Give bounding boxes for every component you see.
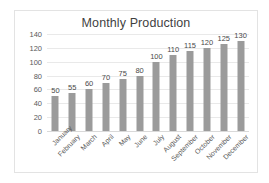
x-axis: JanuaryFebruaryMarchAprilMayJuneJulyAugu… bbox=[47, 131, 249, 176]
y-axis: 020406080100120140 bbox=[15, 34, 45, 131]
bar[interactable] bbox=[237, 41, 244, 131]
bar-slot: 60 bbox=[81, 34, 98, 131]
bar[interactable] bbox=[170, 55, 177, 131]
bar[interactable] bbox=[203, 48, 210, 131]
bar-value-label: 115 bbox=[184, 41, 196, 50]
bar[interactable] bbox=[102, 83, 109, 132]
bar-slot: 55 bbox=[64, 34, 81, 131]
bar-slot: 70 bbox=[98, 34, 115, 131]
y-axis-tick-label: 120 bbox=[29, 43, 42, 52]
bar-slot: 130 bbox=[232, 34, 249, 131]
y-axis-tick-label: 20 bbox=[34, 113, 42, 122]
x-axis-tick-label: January bbox=[51, 133, 65, 147]
bar[interactable] bbox=[153, 62, 160, 131]
bar[interactable] bbox=[220, 44, 227, 131]
bar[interactable] bbox=[86, 89, 93, 131]
bar-slot: 125 bbox=[215, 34, 232, 131]
bar-slot: 80 bbox=[131, 34, 148, 131]
bar-value-label: 80 bbox=[135, 66, 143, 75]
y-axis-tick-label: 100 bbox=[29, 57, 42, 66]
bar-value-label: 55 bbox=[68, 83, 76, 92]
bar-value-label: 110 bbox=[167, 45, 179, 54]
bar[interactable] bbox=[52, 96, 59, 131]
chart-title: Monthly Production bbox=[15, 16, 257, 30]
bar-value-label: 75 bbox=[119, 69, 127, 78]
bar-value-label: 50 bbox=[51, 86, 59, 95]
y-axis-tick-label: 140 bbox=[29, 30, 42, 39]
bar-value-label: 120 bbox=[201, 38, 214, 47]
bar-slot: 100 bbox=[148, 34, 165, 131]
bar[interactable] bbox=[187, 51, 194, 131]
bar-value-label: 125 bbox=[217, 34, 230, 43]
bar[interactable] bbox=[119, 79, 126, 131]
plot-area: 505560707580100110115120125130 bbox=[47, 34, 249, 131]
bar-value-label: 70 bbox=[102, 73, 110, 82]
bar-slot: 110 bbox=[165, 34, 182, 131]
chart-frame: Monthly Production 020406080100120140 50… bbox=[14, 10, 258, 173]
bar-value-label: 100 bbox=[150, 52, 163, 61]
bar-slot: 115 bbox=[182, 34, 199, 131]
y-axis-tick-label: 60 bbox=[34, 85, 42, 94]
bar-series: 505560707580100110115120125130 bbox=[47, 34, 249, 131]
y-axis-tick-label: 80 bbox=[34, 71, 42, 80]
bar-slot: 50 bbox=[47, 34, 64, 131]
bar-slot: 120 bbox=[199, 34, 216, 131]
bar-slot: 75 bbox=[114, 34, 131, 131]
bar[interactable] bbox=[136, 76, 143, 131]
bar-value-label: 130 bbox=[234, 31, 247, 40]
y-axis-tick-label: 0 bbox=[38, 127, 42, 136]
y-axis-tick-label: 40 bbox=[34, 99, 42, 108]
bar-value-label: 60 bbox=[85, 79, 93, 88]
